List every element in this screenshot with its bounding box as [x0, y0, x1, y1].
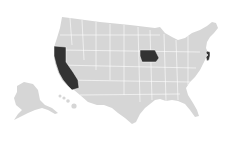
- hawaii: [59, 95, 77, 109]
- us-mainland: [54, 17, 218, 124]
- contiguous-us: [14, 17, 218, 124]
- state-iowa: [140, 50, 159, 62]
- alaska: [14, 82, 58, 120]
- us-map: [0, 0, 230, 141]
